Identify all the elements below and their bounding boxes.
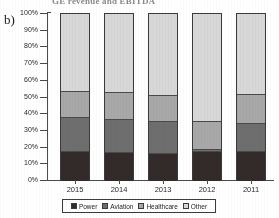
bar-2012 [192, 13, 222, 180]
segment-divider [237, 94, 265, 95]
segment-healthcare-2014 [105, 92, 133, 119]
y-tick-mark [40, 147, 48, 148]
segment-divider [237, 151, 265, 152]
y-tick-label: 40% [12, 109, 38, 116]
segment-divider [105, 92, 133, 93]
segment-divider [149, 121, 177, 122]
segment-other-2015 [61, 14, 89, 91]
y-tick-mark [40, 130, 48, 131]
y-tick-mark [40, 13, 48, 14]
figure-panel: GE revenue and EBITDA b) 0%10%20%30%40%5… [0, 0, 279, 218]
legend-item-power: Power [71, 203, 97, 210]
segment-aviation-2014 [105, 119, 133, 152]
segment-healthcare-2012 [193, 121, 221, 149]
y-tick-mark [40, 163, 48, 164]
segment-power-2012 [193, 151, 221, 181]
segment-healthcare-2013 [149, 95, 177, 121]
segment-power-2014 [105, 152, 133, 181]
x-tick-mark [75, 180, 76, 184]
segment-aviation-2015 [61, 117, 89, 151]
y-tick-mark [40, 30, 48, 31]
y-tick-mark [40, 97, 48, 98]
x-tick-label-2014: 2014 [99, 185, 139, 194]
bar-2014 [104, 13, 134, 180]
segment-aviation-2011 [237, 123, 265, 151]
y-tick-label: 10% [12, 159, 38, 166]
bar-2013 [148, 13, 178, 180]
segment-power-2011 [237, 151, 265, 181]
legend-swatch-healthcare [138, 203, 144, 209]
x-tick-label-2013: 2013 [143, 185, 183, 194]
segment-divider [61, 91, 89, 92]
x-tick-mark [251, 180, 252, 184]
bar-2015 [60, 13, 90, 180]
bar-2011 [236, 13, 266, 180]
segment-other-2012 [193, 14, 221, 121]
x-tick-mark [119, 180, 120, 184]
legend-swatch-other [183, 203, 189, 209]
segment-healthcare-2015 [61, 91, 89, 117]
x-tick-mark [163, 180, 164, 184]
legend-label-aviation: Aviation [110, 203, 133, 210]
segment-power-2015 [61, 151, 89, 181]
legend-item-aviation: Aviation [102, 203, 133, 210]
y-tick-label: 30% [12, 126, 38, 133]
legend-swatch-power [71, 203, 77, 209]
segment-other-2011 [237, 14, 265, 94]
segment-divider [193, 121, 221, 122]
segment-power-2013 [149, 153, 177, 181]
legend-label-other: Other [191, 203, 207, 210]
cut-off-caption: GE revenue and EBITDA [52, 0, 202, 4]
segment-divider [105, 119, 133, 120]
y-tick-label: 100% [12, 9, 38, 16]
y-tick-label: 20% [12, 143, 38, 150]
x-tick-label-2015: 2015 [55, 185, 95, 194]
y-tick-mark [40, 113, 48, 114]
segment-divider [149, 95, 177, 96]
x-tick-label-2011: 2011 [231, 185, 271, 194]
segment-divider [105, 152, 133, 153]
y-tick-mark [40, 80, 48, 81]
segment-divider [61, 151, 89, 152]
legend-label-power: Power [79, 203, 97, 210]
y-tick-mark [40, 180, 48, 181]
y-tick-label: 70% [12, 59, 38, 66]
segment-other-2014 [105, 14, 133, 92]
segment-healthcare-2011 [237, 94, 265, 122]
legend-swatch-aviation [102, 203, 108, 209]
y-tick-label: 60% [12, 76, 38, 83]
y-tick-mark [40, 46, 48, 47]
legend-item-other: Other [183, 203, 207, 210]
segment-divider [237, 123, 265, 124]
segment-divider [193, 149, 221, 150]
x-tick-mark [207, 180, 208, 184]
segment-other-2013 [149, 14, 177, 95]
segment-aviation-2013 [149, 121, 177, 154]
y-tick-label: 50% [12, 93, 38, 100]
legend-item-healthcare: Healthcare [138, 203, 177, 210]
legend-label-healthcare: Healthcare [146, 203, 177, 210]
y-tick-label: 0% [12, 176, 38, 183]
y-tick-label: 90% [12, 26, 38, 33]
chart-legend: PowerAviationHealthcareOther [62, 199, 216, 213]
x-tick-label-2012: 2012 [187, 185, 227, 194]
y-tick-mark [40, 63, 48, 64]
segment-divider [149, 153, 177, 154]
segment-divider [193, 151, 221, 152]
y-tick-label: 80% [12, 42, 38, 49]
segment-divider [61, 117, 89, 118]
